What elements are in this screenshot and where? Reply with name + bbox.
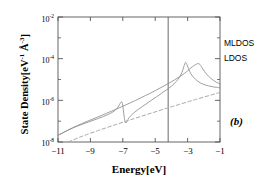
figure-panel-b: State Density[eV-1 Å-3] Energy[eV] 10-2 … bbox=[0, 0, 278, 187]
data-curves bbox=[58, 62, 220, 142]
plot-canvas bbox=[0, 0, 278, 187]
curve-reference-dashed bbox=[69, 92, 220, 142]
